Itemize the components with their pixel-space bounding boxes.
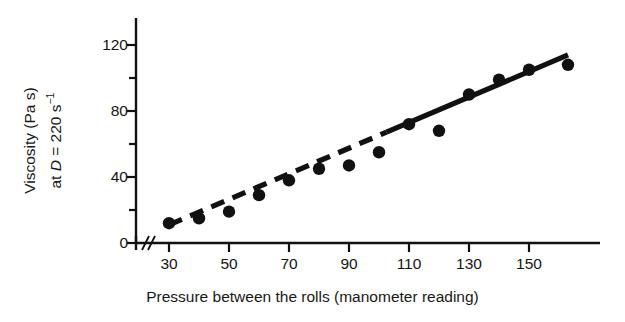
x-tick-label-110: 110 — [397, 255, 422, 273]
data-point — [373, 146, 385, 158]
trendline — [169, 55, 568, 225]
x-tick-label-70: 70 — [280, 255, 297, 273]
x-tick-label-30: 30 — [160, 255, 177, 273]
data-point — [283, 174, 295, 186]
x-tick-label-150: 150 — [516, 255, 542, 273]
x-tick-label-130: 130 — [456, 255, 482, 273]
data-point — [163, 217, 175, 229]
data-point — [343, 159, 355, 171]
data-point — [313, 163, 325, 175]
data-point — [562, 59, 574, 71]
data-point — [193, 212, 205, 224]
data-point — [463, 88, 475, 100]
data-point — [403, 118, 415, 130]
data-point — [253, 189, 265, 201]
trendline-dashed — [169, 132, 386, 225]
data-point — [523, 64, 535, 76]
x-tick-label-90: 90 — [340, 255, 357, 273]
y-tick-label-0: 0 — [80, 234, 128, 252]
x-tick-label-50: 50 — [220, 255, 237, 273]
data-point — [493, 73, 505, 85]
y-tick-label-80: 80 — [80, 102, 128, 120]
chart-figure: Viscosity (Pa s) at D = 220 s−1 Pressure… — [0, 0, 625, 322]
data-point — [433, 125, 445, 137]
data-point — [223, 205, 235, 217]
y-tick-label-40: 40 — [80, 168, 128, 186]
y-tick-label-120: 120 — [80, 36, 128, 54]
